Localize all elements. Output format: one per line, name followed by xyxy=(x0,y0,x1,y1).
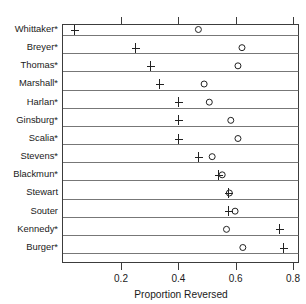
category-label: Stewart xyxy=(26,186,58,197)
x-tick-label: 0.8 xyxy=(286,273,300,284)
category-label: Whittaker* xyxy=(15,23,59,34)
category-label: Breyer* xyxy=(27,41,59,52)
category-label: Thomas* xyxy=(20,59,58,70)
category-label: Burger* xyxy=(26,241,58,252)
category-label: Ginsburg* xyxy=(16,114,58,125)
category-label: Harlan* xyxy=(27,96,59,107)
x-axis-title: Proportion Reversed xyxy=(134,289,228,300)
category-label: Stevens* xyxy=(20,150,58,161)
category-label: Kennedy* xyxy=(17,223,58,234)
category-label: Souter xyxy=(30,205,58,216)
x-tick-label: 0.4 xyxy=(171,273,185,284)
category-label: Marshall* xyxy=(19,77,58,88)
x-tick-label: 0.6 xyxy=(229,273,243,284)
category-label: Blackmun* xyxy=(13,168,58,179)
proportion-reversed-dot-chart: Whittaker*Breyer*Thomas*Marshall*Harlan*… xyxy=(0,0,306,304)
category-label: Scalia* xyxy=(29,132,59,143)
chart-canvas: Whittaker*Breyer*Thomas*Marshall*Harlan*… xyxy=(0,0,306,304)
x-tick-label: 0.2 xyxy=(114,273,128,284)
